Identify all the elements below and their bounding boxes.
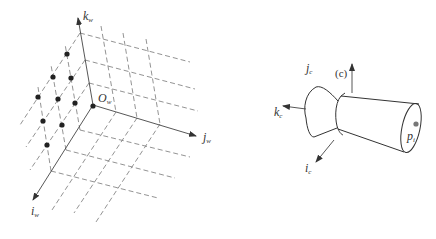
label-j-c: jc — [306, 62, 312, 76]
world-axes — [33, 18, 196, 200]
point — [40, 118, 45, 123]
axis-sub: w — [88, 16, 93, 24]
diagram-canvas — [0, 0, 436, 239]
point-sub: i — [413, 136, 415, 144]
k-w-axis — [78, 18, 93, 105]
k-c-axis — [283, 106, 306, 109]
axis-sub: w — [206, 137, 211, 145]
camera-body — [305, 87, 425, 155]
axis-sub: c — [308, 168, 311, 176]
point — [64, 51, 69, 56]
point — [55, 96, 60, 101]
label-i-c: ic — [305, 162, 311, 176]
panel-label: (c) — [335, 68, 347, 79]
label-j-w: jw — [203, 131, 211, 145]
point — [68, 75, 73, 80]
label-i-w: iw — [31, 205, 39, 219]
label-k-c: kc — [274, 106, 282, 120]
image-point-pi — [413, 121, 418, 126]
point — [50, 74, 55, 79]
j-w-axis — [93, 105, 196, 136]
point — [35, 94, 40, 99]
point — [72, 100, 77, 105]
label-o-w: Ow — [98, 92, 111, 106]
origin-point — [90, 103, 95, 108]
image-plane — [397, 102, 425, 155]
label-p-i: pi — [407, 130, 415, 144]
world-grid — [20, 26, 198, 222]
point — [44, 142, 49, 147]
label-k-w: kw — [83, 10, 93, 24]
axis-sub: c — [279, 112, 282, 120]
origin-letter: O — [98, 91, 107, 105]
i-c-axis — [316, 140, 334, 162]
axis-sub: c — [309, 68, 312, 76]
camera-lens — [305, 87, 338, 137]
point — [59, 122, 64, 127]
origin-sub: w — [107, 98, 112, 106]
axis-sub: w — [34, 211, 39, 219]
